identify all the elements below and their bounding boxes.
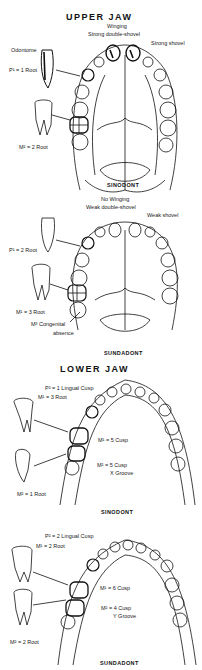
label-y-groove: Y Groove	[113, 613, 136, 619]
label-weak-double-shovel: Weak double-shovel	[86, 204, 136, 210]
label-m2-4-cusp: M² = 4 Cusp	[101, 605, 131, 611]
label-m3-congenital: M³ Congenital	[31, 321, 65, 327]
label-m2-5-cusp: M² = 5 Cusp	[97, 462, 127, 468]
label-m1-6-cusp: M¹ = 6 Cusp	[100, 585, 130, 591]
lower-sundadont-caption: SUNDADONT	[100, 660, 139, 666]
label-strong-double-shovel: Strong double-shovel	[88, 31, 140, 37]
upper-jaw-title: UPPER JAW	[66, 12, 133, 22]
label-p1-1-root: P¹ = 1 Root	[9, 67, 37, 73]
label-p2-1-lingual-cusp: P² = 1 Lingual Cusp	[45, 385, 93, 391]
upper-sundadont-caption: SUNDADONT	[104, 350, 143, 356]
label-odontome: Odontome	[11, 47, 37, 53]
label-p2-2-lingual-cusp: P² = 2 Lingual Cusp	[45, 533, 93, 539]
upper-sinodont-caption: SINODONT	[107, 182, 139, 188]
label-m1-3-root: M¹ = 3 Root	[38, 394, 67, 400]
upper-sundadont-arch	[68, 222, 178, 331]
lower-jaw-title: LOWER JAW	[60, 364, 129, 374]
lower-sinodont-caption: SINODONT	[101, 509, 133, 515]
dental-diagram-art	[0, 0, 202, 670]
lower-sundadont-arch	[58, 540, 196, 665]
lower-sinodont-molar-tooth	[14, 398, 68, 432]
label-strong-shovel: Strong shovel	[151, 40, 185, 46]
label-m2-2-root: M² = 2 Root	[19, 144, 48, 150]
label-m3-absence: absence	[53, 330, 74, 336]
lower-sundadont-molar-tooth	[12, 546, 68, 585]
lower-sinodont-second-molar-tooth	[15, 449, 66, 482]
lower-sundadont-second-molar-tooth	[14, 589, 66, 625]
label-weak-shovel: Weak shovel	[147, 212, 178, 218]
label-winging: Winging	[107, 23, 127, 29]
label-m1-5-cusp: M¹ = 5 Cusp	[98, 437, 128, 443]
upper-sundadont-premolar-tooth	[41, 218, 80, 252]
upper-sinodont-arch	[70, 45, 177, 192]
upper-sinodont-incisor-tooth	[41, 50, 80, 88]
label-m1-3-root: M¹ = 3 Root	[16, 309, 45, 315]
label-m2-1-root: M² = 1 Root	[17, 491, 46, 497]
label-m2-2-root: M² = 2 Root	[10, 639, 39, 645]
label-m1-2-root: M¹ = 2 Root	[36, 543, 65, 549]
upper-sinodont-molar-tooth	[35, 100, 70, 135]
label-p1-2-root: P¹ = 2 Root	[9, 247, 37, 253]
label-no-winging: No Winging	[101, 196, 129, 202]
label-x-groove: X Groove	[110, 470, 133, 476]
